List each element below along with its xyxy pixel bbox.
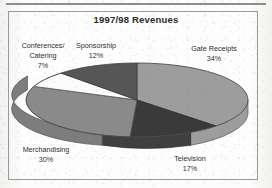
slice-label-text: Gate Receipts bbox=[191, 44, 237, 53]
slice-label-percent: 30% bbox=[6, 155, 86, 165]
slice-label-merchandising: Merchandising 30% bbox=[6, 145, 86, 165]
slice-label-percent: 34% bbox=[176, 54, 252, 64]
chart-title: 1997/98 Revenues bbox=[0, 14, 272, 25]
slice-label-percent: 17% bbox=[152, 164, 228, 174]
slice-label-gate-receipts: Gate Receipts 34% bbox=[176, 44, 252, 64]
slice-label-percent: 7% bbox=[6, 61, 80, 71]
slice-label-percent: 12% bbox=[60, 51, 132, 61]
slice-label-text: Television bbox=[174, 154, 206, 163]
figure-root: 1997/98 Revenues bbox=[0, 0, 272, 188]
slice-label-text-line2: Catering bbox=[29, 51, 56, 60]
slice-label-text-line1: Conferences/ bbox=[22, 41, 65, 50]
slice-label-sponsorship: Sponsorship 12% bbox=[60, 41, 132, 61]
slice-label-text: Merchandising bbox=[23, 145, 70, 154]
slice-label-text: Sponsorship bbox=[76, 41, 116, 50]
slice-label-television: Television 17% bbox=[152, 154, 228, 174]
